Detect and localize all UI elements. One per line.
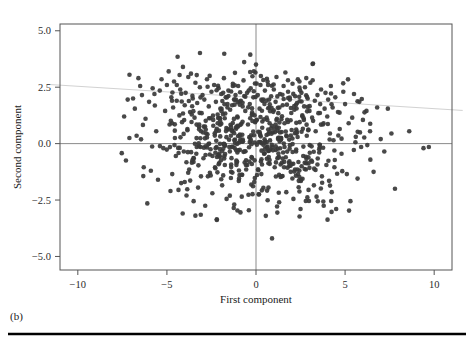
scatter-point — [320, 174, 325, 179]
scatter-point — [277, 120, 282, 125]
scatter-point — [183, 91, 188, 96]
scatter-point — [198, 51, 203, 56]
scatter-point — [221, 91, 226, 96]
scatter-point — [321, 203, 326, 208]
scatter-point — [309, 144, 314, 149]
scatter-point — [319, 186, 324, 191]
scatter-point — [260, 188, 265, 193]
y-axis-tick-label: 2.5 — [38, 82, 51, 93]
scatter-point — [237, 168, 242, 173]
scatter-point — [375, 105, 380, 110]
scatter-point — [177, 73, 182, 78]
scatter-point — [193, 213, 198, 218]
scatter-point — [205, 84, 210, 89]
scatter-point — [332, 165, 337, 170]
scatter-point — [352, 92, 357, 97]
scatter-point — [159, 77, 164, 82]
scatter-point — [259, 172, 264, 177]
y-axis-tick-label: 0.0 — [38, 138, 51, 149]
scatter-point — [310, 62, 315, 67]
scatter-point — [307, 166, 312, 171]
scatter-point — [299, 164, 304, 169]
scatter-point — [194, 136, 199, 141]
scatter-point — [291, 197, 296, 202]
scatter-point — [178, 87, 183, 92]
scatter-point — [280, 156, 285, 161]
scatter-point — [276, 190, 281, 195]
scatter-point — [315, 156, 320, 161]
scatter-point — [178, 135, 183, 140]
scatter-point — [280, 93, 285, 98]
scatter-point — [181, 111, 186, 116]
scatter-point — [332, 148, 337, 153]
scatter-point — [293, 167, 298, 172]
scatter-point — [285, 149, 290, 154]
scatter-point — [276, 151, 281, 156]
scatter-point — [325, 114, 330, 119]
scatter-point — [233, 71, 238, 76]
scatter-point — [189, 71, 194, 76]
scatter-point — [141, 123, 146, 128]
scatter-point — [281, 150, 286, 155]
scatter-point — [198, 212, 203, 217]
scatter-point — [232, 97, 237, 102]
scatter-point — [389, 131, 394, 136]
scatter-point — [154, 129, 159, 134]
scatter-point — [175, 83, 180, 88]
scatter-point — [199, 174, 204, 179]
scatter-point — [229, 165, 234, 170]
scatter-point — [298, 207, 303, 212]
scatter-point — [318, 111, 323, 116]
scatter-point — [280, 174, 285, 179]
scatter-point — [297, 95, 302, 100]
scatter-point — [313, 98, 318, 103]
scatter-point — [145, 201, 150, 206]
scatter-point — [222, 51, 227, 56]
scatter-point — [307, 104, 312, 109]
scatter-point — [260, 126, 265, 131]
scatter-point — [328, 131, 333, 136]
scatter-point — [299, 99, 304, 104]
scatter-point — [290, 176, 295, 181]
scatter-point — [266, 83, 271, 88]
scatter-point — [210, 191, 215, 196]
scatter-point — [329, 91, 334, 96]
scatter-point — [287, 95, 292, 100]
scatter-point — [293, 131, 298, 136]
scatter-point — [139, 137, 144, 142]
scatter-point — [282, 141, 287, 146]
scatter-point — [302, 118, 307, 123]
scatter-point — [242, 160, 247, 165]
scatter-point — [182, 180, 187, 185]
scatter-point — [190, 104, 195, 109]
scatter-point — [305, 94, 310, 99]
scatter-point — [172, 143, 177, 148]
scatter-point — [297, 79, 302, 84]
scatter-point — [306, 128, 311, 133]
scatter-point — [267, 148, 272, 153]
scatter-point — [286, 120, 291, 125]
scatter-point — [301, 144, 306, 149]
scatter-point — [217, 128, 222, 133]
scatter-point — [336, 133, 341, 138]
scatter-point — [247, 140, 252, 145]
scatter-point — [260, 108, 265, 113]
scatter-point — [203, 119, 208, 124]
scatter-point — [232, 102, 237, 107]
scatter-point — [321, 199, 326, 204]
scatter-point — [220, 183, 225, 188]
scatter-point — [284, 190, 289, 195]
scatter-point — [353, 140, 358, 145]
scatter-point — [267, 162, 272, 167]
scatter-point — [213, 146, 218, 151]
y-axis-tick-label: −5.0 — [32, 251, 51, 262]
scatter-point — [193, 142, 198, 147]
scatter-point — [218, 116, 223, 121]
scatter-point — [337, 127, 342, 132]
scatter-point — [153, 103, 158, 108]
scatter-point — [140, 93, 145, 98]
scatter-point — [122, 114, 127, 119]
scatter-point — [277, 200, 282, 205]
scatter-point — [258, 134, 263, 139]
scatter-point — [275, 116, 280, 121]
